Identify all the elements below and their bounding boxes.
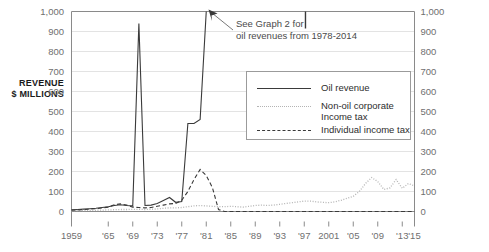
annotation-arrow-line: [212, 13, 233, 30]
y-tick-left-500: 500: [28, 107, 64, 117]
legend-label-oil-revenue: Oil revenue: [321, 82, 370, 94]
graph-2-annotation: See Graph 2 for oil revenues from 1978-2…: [236, 18, 357, 42]
chart-figure: REVENUE $ MILLIONS 1,0009008007006005004…: [0, 0, 489, 252]
legend-label-corporate-tax: Non-oil corporate: [321, 100, 394, 112]
y-tick-left-300: 300: [28, 147, 64, 157]
y-tick-left-600: 600: [28, 87, 64, 97]
y-tick-left-1000: 1,000: [28, 7, 64, 17]
legend-swatch-dotted-icon: [257, 106, 311, 107]
y-tick-right-100: 100: [421, 187, 461, 197]
legend-swatch-dashed-icon: [257, 130, 311, 131]
y-tick-left-800: 800: [28, 47, 64, 57]
x-tick-2015: '15: [395, 231, 435, 241]
series-line-dotted: [72, 178, 415, 211]
y-tick-right-1000: 1,000: [421, 7, 461, 17]
y-tick-left-0: 0: [28, 207, 64, 217]
y-tick-right-600: 600: [421, 87, 461, 97]
y-tick-right-300: 300: [421, 147, 461, 157]
y-tick-left-400: 400: [28, 127, 64, 137]
chart-legend: Oil revenue Non-oil corporate Income tax…: [246, 71, 411, 140]
x-tick-1959: 1959: [52, 231, 92, 241]
legend-label-corporate-tax-2: Income tax: [321, 111, 367, 123]
y-tick-right-400: 400: [421, 127, 461, 137]
y-tick-left-700: 700: [28, 67, 64, 77]
y-tick-right-800: 800: [421, 47, 461, 57]
y-tick-right-200: 200: [421, 167, 461, 177]
y-tick-right-500: 500: [421, 107, 461, 117]
y-tick-left-900: 900: [28, 27, 64, 37]
y-tick-left-100: 100: [28, 187, 64, 197]
y-tick-right-900: 900: [421, 27, 461, 37]
annotation-line-1: See Graph 2 for: [236, 18, 357, 30]
y-tick-left-200: 200: [28, 167, 64, 177]
y-tick-right-0: 0: [421, 207, 461, 217]
y-tick-right-700: 700: [421, 67, 461, 77]
annotation-line-2: oil revenues from 1978-2014: [236, 30, 357, 42]
legend-label-individual-tax: Individual income tax: [321, 124, 410, 136]
legend-swatch-solid-icon: [257, 88, 311, 89]
